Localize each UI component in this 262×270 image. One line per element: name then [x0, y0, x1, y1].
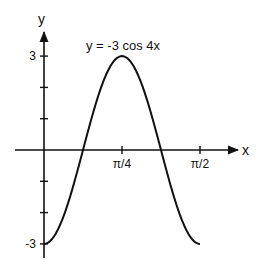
x-tick-label: π/4 [113, 157, 132, 171]
y-axis-label: y [38, 11, 45, 27]
x-axis-label: x [242, 142, 249, 158]
chart-title: y = -3 cos 4x [86, 38, 161, 53]
y-tick-label: 3 [29, 49, 36, 63]
x-tick-label: π/2 [191, 157, 210, 171]
y-tick-label: -3 [25, 237, 36, 251]
chart: π/4π/23-3 x y y = -3 cos 4x [0, 0, 262, 270]
